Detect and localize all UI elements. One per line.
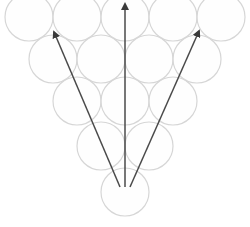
circle-node-r0-c4: [197, 0, 245, 41]
circle-node-r0-c1: [53, 0, 101, 41]
circle-node-r1-c0: [29, 35, 77, 83]
diagram-canvas: [0, 0, 250, 227]
circle-node-r2-c2: [149, 77, 197, 125]
circle-node-r0-c0: [5, 0, 53, 41]
circle-node-r3-c1: [125, 122, 173, 170]
circle-node-r1-c2: [125, 35, 173, 83]
circle-node-r3-c0: [77, 122, 125, 170]
circle-node-r1-c3: [173, 35, 221, 83]
circle-node-r1-c1: [77, 35, 125, 83]
circle-node-r0-c3: [149, 0, 197, 41]
circle-pyramid-diagram: [0, 0, 250, 227]
